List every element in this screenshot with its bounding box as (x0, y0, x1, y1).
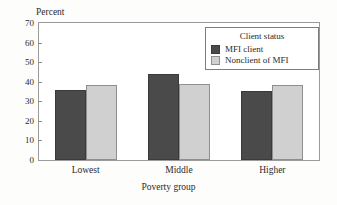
legend-entry-label: Nonclient of MFI (225, 55, 289, 65)
bar (55, 90, 86, 160)
y-tick-label: 50 (25, 58, 34, 67)
bar-group (148, 23, 210, 160)
y-tick-label: 40 (25, 77, 34, 86)
legend-swatch-icon (211, 45, 220, 54)
x-tick-label: Middle (165, 165, 192, 176)
y-tick-label: 0 (30, 156, 35, 165)
y-tick-label: 30 (25, 97, 34, 106)
x-tick-label: Higher (259, 165, 285, 176)
legend-entries: MFI clientNonclient of MFI (211, 44, 313, 65)
bar (272, 85, 303, 160)
legend: Client status MFI clientNonclient of MFI (205, 27, 319, 70)
x-axis-title: Poverty group (141, 182, 195, 193)
bar (241, 91, 272, 160)
legend-title: Client status (211, 31, 313, 42)
legend-entry-label: MFI client (225, 44, 263, 54)
y-tick-label: 70 (25, 19, 34, 28)
y-tick-label: 10 (25, 136, 34, 145)
legend-entry: Nonclient of MFI (211, 55, 313, 65)
y-axis-title: Percent (36, 7, 65, 18)
x-tick-label: Lowest (72, 165, 100, 176)
y-axis-ticks: 010203040506070 (0, 0, 38, 205)
bar-chart-figure: Percent 010203040506070 LowestMiddleHigh… (0, 0, 337, 205)
y-tick-label: 60 (25, 38, 34, 47)
bar-group (55, 23, 117, 160)
y-tick-label: 20 (25, 116, 34, 125)
bar (179, 84, 210, 160)
bar (148, 74, 179, 160)
bar (86, 85, 117, 160)
legend-swatch-icon (211, 56, 220, 65)
legend-entry: MFI client (211, 44, 313, 54)
